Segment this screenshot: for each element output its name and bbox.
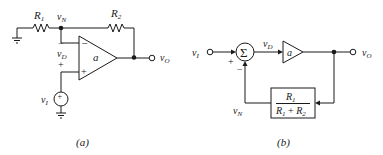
block-diagram-b: vI Σ + − vD a vO R1 R1 + R2 vN ( — [192, 38, 372, 149]
opamp-plus: + — [81, 66, 87, 77]
amplifier-triangle-icon — [283, 41, 303, 63]
amp-gain: a — [287, 47, 292, 58]
vd-minus-sign: − — [58, 38, 63, 48]
caption-b: (b) — [277, 136, 290, 149]
vd-plus-sign: + — [58, 59, 64, 70]
resistor-r2-icon — [108, 24, 124, 32]
caption-a: (a) — [76, 136, 89, 149]
resistor-r1-icon — [33, 24, 49, 32]
ground-icon — [56, 106, 66, 118]
output-terminal-icon — [350, 49, 356, 55]
sum-minus-sign: − — [237, 64, 243, 75]
sum-plus-sign: + — [228, 56, 234, 67]
r1-label: R1 — [33, 9, 44, 23]
vo-label: vO — [362, 47, 372, 60]
input-terminal-icon — [207, 49, 213, 55]
feedback-denominator: R1 + R2 — [275, 105, 306, 118]
arrow-icon — [231, 50, 236, 55]
vn-label: vN — [233, 105, 242, 118]
arrow-icon — [243, 61, 248, 66]
source-plus-sign: + — [58, 92, 63, 101]
opamp-minus: − — [81, 37, 88, 49]
circuit-a: R1 vN R2 − + a − vD + + vI — [12, 7, 170, 149]
output-terminal-icon — [149, 55, 155, 61]
vn-label: vN — [57, 11, 66, 24]
vi-label: vI — [41, 94, 48, 107]
sigma-symbol: Σ — [240, 45, 248, 60]
arrow-icon — [315, 101, 320, 106]
node-output — [132, 55, 137, 60]
opamp-gain: a — [93, 51, 99, 63]
arrow-icon — [278, 50, 283, 55]
feedback-numerator: R1 — [285, 91, 296, 104]
vi-label: vI — [192, 47, 199, 60]
ground-icon — [12, 28, 22, 43]
r2-label: R2 — [110, 7, 122, 21]
vo-label: vO — [160, 52, 170, 65]
vd-label: vD — [263, 38, 273, 51]
